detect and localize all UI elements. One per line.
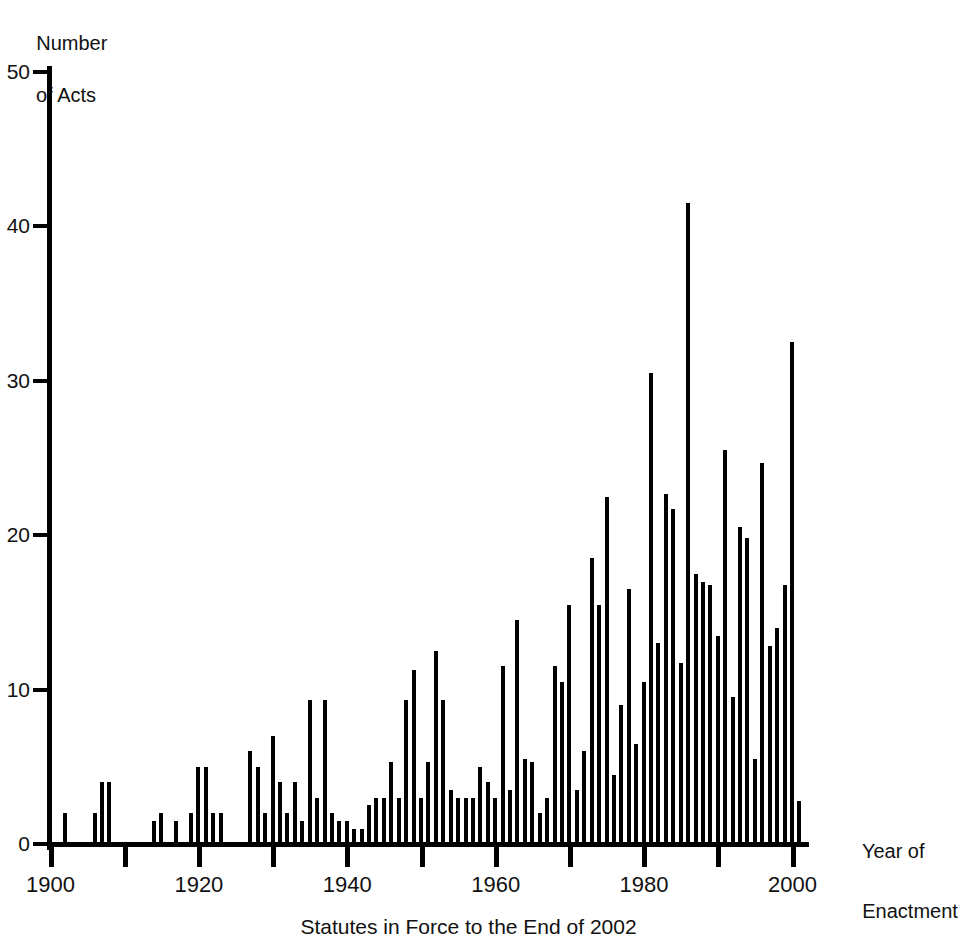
bar	[627, 589, 631, 844]
bar	[656, 643, 660, 844]
bar	[63, 813, 67, 844]
bar	[159, 813, 163, 844]
bar	[716, 636, 720, 844]
bar	[308, 700, 312, 844]
x-axis-tick	[716, 846, 721, 867]
y-axis-tick-label-text: 10	[0, 679, 30, 700]
bar	[100, 782, 104, 844]
bar	[590, 558, 594, 844]
y-axis-tick-label-text: 20	[0, 524, 30, 545]
bar	[538, 813, 542, 844]
y-axis-tick	[33, 224, 48, 228]
bar	[219, 813, 223, 844]
bar	[271, 736, 275, 844]
bar	[441, 700, 445, 844]
bar	[152, 821, 156, 844]
bar	[449, 790, 453, 844]
bar	[367, 805, 371, 844]
bar	[456, 798, 460, 844]
bar	[686, 203, 690, 844]
bar	[605, 497, 609, 844]
bar	[597, 605, 601, 844]
bar	[397, 798, 401, 844]
bar	[768, 646, 772, 844]
bar	[783, 585, 787, 844]
bar	[263, 813, 267, 844]
y-axis-tick	[33, 688, 48, 692]
y-axis-tick	[33, 379, 48, 383]
bar	[412, 670, 416, 844]
bar	[256, 767, 260, 844]
bar	[337, 821, 341, 844]
y-axis-tick-label-text: 30	[0, 370, 30, 391]
bar	[567, 605, 571, 844]
bar	[619, 705, 623, 844]
bar	[723, 450, 727, 844]
bar	[404, 700, 408, 844]
bar	[642, 682, 646, 844]
bar	[612, 775, 616, 844]
bar	[664, 494, 668, 844]
x-axis-tick	[420, 846, 425, 867]
y-axis-line	[47, 66, 52, 850]
x-axis-tick	[271, 846, 276, 867]
bar	[360, 829, 364, 844]
bar	[300, 821, 304, 844]
bar	[323, 700, 327, 844]
x-axis-tick	[197, 846, 202, 867]
bar	[745, 538, 749, 844]
bar	[649, 373, 653, 844]
x-axis-title-line1: Year of	[862, 840, 925, 862]
bar	[293, 782, 297, 844]
bar	[389, 762, 393, 844]
bar	[278, 782, 282, 844]
bar	[501, 666, 505, 844]
bar	[545, 798, 549, 844]
bar	[189, 813, 193, 844]
bar	[508, 790, 512, 844]
y-axis-tick-label: 20	[0, 524, 30, 545]
bar	[560, 682, 564, 844]
x-axis-tick-label: 1980	[604, 872, 684, 898]
bar	[671, 509, 675, 844]
bar	[107, 782, 111, 844]
bar	[285, 813, 289, 844]
bar	[790, 342, 794, 844]
bar	[196, 767, 200, 844]
bar	[211, 813, 215, 844]
x-axis-tick	[123, 846, 128, 867]
bar	[493, 798, 497, 844]
bar	[464, 798, 468, 844]
bar	[345, 821, 349, 844]
bar	[478, 767, 482, 844]
x-axis-tick-label: 1920	[159, 872, 239, 898]
bar	[330, 813, 334, 844]
x-axis-tick	[49, 846, 54, 867]
bar	[731, 697, 735, 844]
bar	[374, 798, 378, 844]
bar	[174, 821, 178, 844]
x-axis-tick-label: 1960	[456, 872, 536, 898]
bar	[634, 744, 638, 844]
y-axis-tick	[33, 842, 48, 846]
x-axis-tick-label: 1940	[307, 872, 387, 898]
bar	[471, 798, 475, 844]
bar	[486, 782, 490, 844]
y-axis-tick-label: 30	[0, 370, 30, 391]
bar	[679, 663, 683, 844]
bar	[760, 463, 764, 844]
y-axis-tick	[33, 533, 48, 537]
y-axis-tick-label: 50	[0, 61, 30, 82]
bar	[434, 651, 438, 844]
bar	[797, 801, 801, 844]
bar	[419, 798, 423, 844]
bar	[701, 582, 705, 844]
y-axis-tick-label: 40	[0, 215, 30, 236]
bar	[775, 628, 779, 844]
bar	[352, 829, 356, 844]
x-axis-tick-label: 1900	[11, 872, 91, 898]
y-axis-tick-label-text: 50	[0, 61, 30, 82]
chart-caption: Statutes in Force to the End of 2002	[0, 914, 937, 940]
